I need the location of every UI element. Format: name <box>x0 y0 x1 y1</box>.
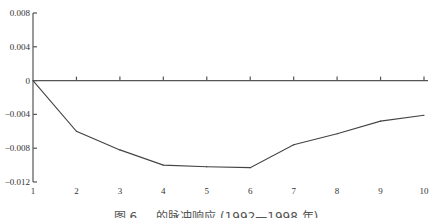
data-point <box>32 80 33 81</box>
x-axis-ticks: 12345678910 <box>31 77 429 196</box>
series-line <box>33 81 424 168</box>
x-tick-label: 2 <box>74 186 79 196</box>
data-point <box>337 133 338 134</box>
y-axis-ticks: 0.0080.0040−0.004−0.008−0.012 <box>5 8 37 187</box>
x-tick-label: 8 <box>335 186 340 196</box>
data-point <box>250 167 251 168</box>
x-tick-label: 9 <box>378 186 383 196</box>
x-tick-label: 6 <box>248 186 253 196</box>
impulse-response-chart: 0.0080.0040−0.004−0.008−0.012 1234567891… <box>0 0 432 218</box>
y-tick-label: 0.008 <box>10 8 31 18</box>
y-tick-label: 0.004 <box>10 42 31 52</box>
series-group <box>32 80 424 168</box>
x-tick-label: 3 <box>118 186 123 196</box>
data-point <box>206 166 207 167</box>
y-tick-label: −0.012 <box>5 177 30 187</box>
data-point <box>76 131 77 132</box>
figure-caption: 图 6 ... 的脉冲响应 (1992—1998 年) <box>0 207 432 218</box>
y-tick-label: 0 <box>26 76 31 86</box>
x-tick-label: 1 <box>31 186 36 196</box>
y-tick-label: −0.004 <box>5 109 31 119</box>
data-point <box>293 144 294 145</box>
x-tick-label: 4 <box>161 186 166 196</box>
x-tick-label: 7 <box>291 186 296 196</box>
data-point <box>380 121 381 122</box>
data-point <box>163 165 164 166</box>
y-tick-label: −0.008 <box>5 143 31 153</box>
axes <box>33 13 428 182</box>
x-tick-label: 5 <box>205 186 210 196</box>
data-point <box>423 115 424 116</box>
data-point <box>119 149 120 150</box>
x-tick-label: 10 <box>420 186 430 196</box>
